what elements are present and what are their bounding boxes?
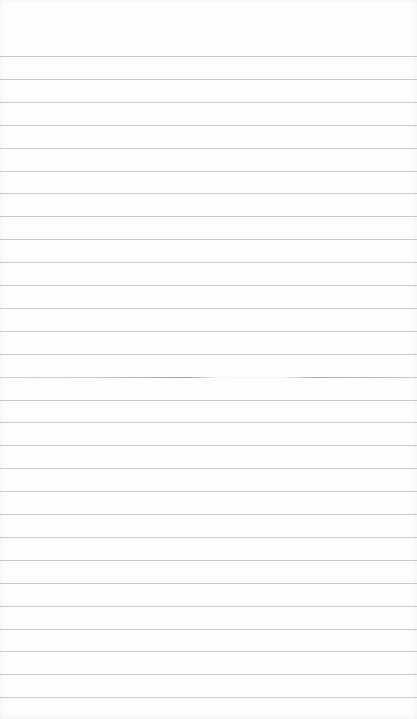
- ruled-line: [0, 377, 417, 378]
- ruled-line: [0, 400, 417, 401]
- ruled-line: [0, 331, 417, 332]
- lined-paper-sheet: [0, 0, 417, 719]
- ruled-line: [0, 308, 417, 309]
- ruled-line: [0, 422, 417, 423]
- ruled-line: [0, 514, 417, 515]
- ruled-line: [0, 537, 417, 538]
- ruled-line: [0, 262, 417, 263]
- ruled-line: [0, 491, 417, 492]
- ruled-line: [0, 560, 417, 561]
- ruled-line: [0, 697, 417, 698]
- ruled-line: [0, 629, 417, 630]
- ruled-line: [0, 79, 417, 80]
- ruled-line: [0, 354, 417, 355]
- ruled-line: [0, 445, 417, 446]
- ruled-line: [0, 606, 417, 607]
- ruled-line: [0, 125, 417, 126]
- ruled-line: [0, 216, 417, 217]
- ruled-line: [0, 56, 417, 57]
- ruled-line: [0, 239, 417, 240]
- ruled-line: [0, 148, 417, 149]
- ruled-line: [0, 674, 417, 675]
- ruled-line: [0, 651, 417, 652]
- ruled-line: [0, 171, 417, 172]
- ruled-line: [0, 583, 417, 584]
- ruled-line: [0, 193, 417, 194]
- ruled-line: [0, 285, 417, 286]
- ruled-line: [0, 102, 417, 103]
- ruled-line: [0, 468, 417, 469]
